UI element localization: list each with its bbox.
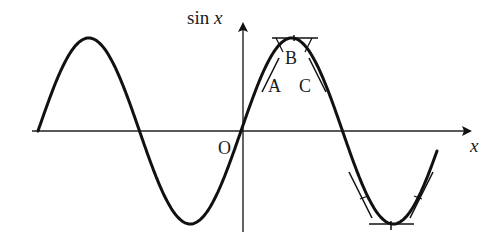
- tangent-trough-right: [410, 172, 433, 218]
- point-label-a: A: [268, 76, 281, 96]
- point-label-b: B: [285, 48, 297, 68]
- sine-diagram: sin x x O B A C: [0, 0, 503, 244]
- x-axis-label: x: [469, 135, 479, 156]
- y-axis-label: sin x: [187, 7, 223, 28]
- point-label-c: C: [299, 76, 311, 96]
- origin-label: O: [218, 138, 231, 158]
